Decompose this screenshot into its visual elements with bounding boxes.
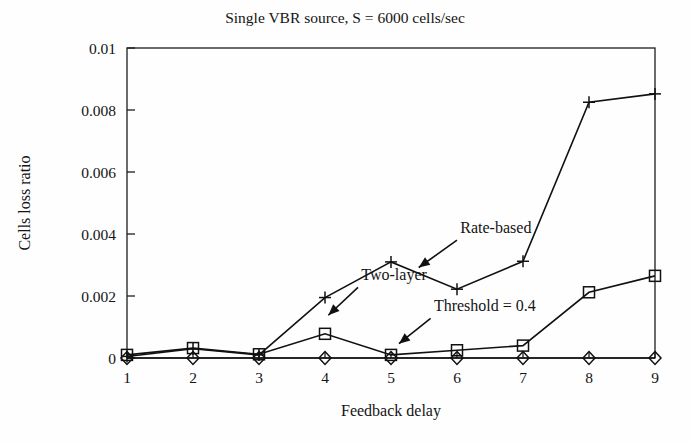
y-tick-label: 0 [108, 350, 116, 367]
data-point-marker-plus [451, 283, 463, 295]
x-tick-label: 7 [519, 369, 527, 386]
y-tick-label: 0.01 [89, 40, 116, 57]
series-two-layer [122, 270, 661, 360]
series-line [127, 94, 655, 357]
x-tick-label: 8 [585, 369, 593, 386]
x-tick-label: 3 [255, 369, 263, 386]
data-point-marker-plus [649, 88, 661, 100]
x-axis-title: Feedback delay [341, 402, 441, 420]
series-rate-based [121, 88, 661, 363]
y-tick-label: 0.006 [81, 164, 116, 181]
annotation-label-two-layer: Two-layer [361, 266, 427, 284]
y-tick-label: 0.004 [81, 226, 116, 243]
line-chart: Single VBR source, S = 6000 cells/sec 00… [0, 0, 692, 442]
annotation-layer: Rate-basedTwo-layerThreshold = 0.4 [328, 219, 536, 343]
x-tick-label: 4 [321, 369, 329, 386]
x-tick-label: 1 [123, 369, 131, 386]
y-tick-label: 0.002 [81, 288, 116, 305]
y-axis-title: Cells loss ratio [16, 155, 33, 250]
series-line [127, 276, 655, 355]
y-tick-label: 0.008 [81, 102, 116, 119]
annotation-label-rate-based: Rate-based [460, 219, 531, 236]
chart-title: Single VBR source, S = 6000 cells/sec [225, 9, 465, 26]
chart-figure: Single VBR source, S = 6000 cells/sec 00… [0, 0, 692, 442]
x-tick-label: 9 [651, 369, 659, 386]
x-tick-label: 5 [387, 369, 395, 386]
annotation-label-threshold-0-4: Threshold = 0.4 [434, 297, 536, 314]
plot-frame [127, 48, 655, 358]
data-point-marker-plus [517, 255, 529, 267]
data-point-marker-plus [583, 96, 595, 108]
data-series-layer [121, 88, 661, 365]
x-axis-ticks: 123456789 [123, 352, 659, 386]
annotation-arrow-head [399, 333, 410, 343]
x-tick-label: 6 [453, 369, 461, 386]
x-tick-label: 2 [189, 369, 197, 386]
